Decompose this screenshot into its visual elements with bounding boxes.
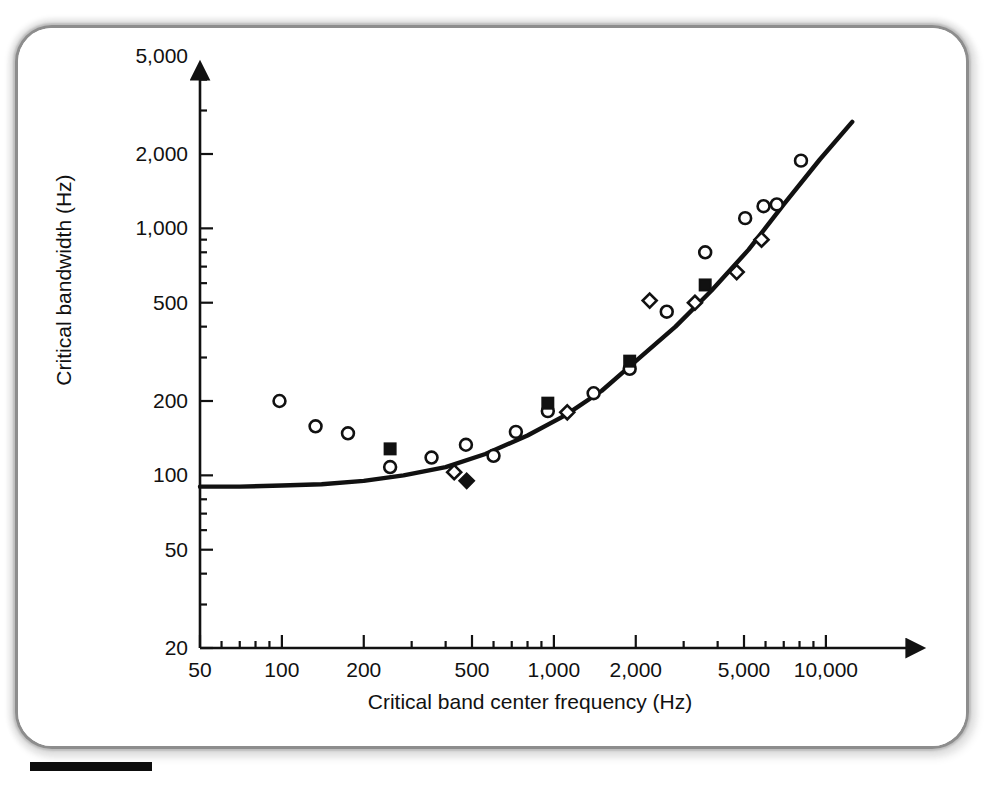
x-tick-label: 100: [264, 658, 299, 682]
y-tick-label: 500: [92, 291, 188, 315]
y-tick-label: 2,000: [92, 142, 188, 166]
x-tick-label: 50: [188, 658, 211, 682]
x-axis-title: Critical band center frequency (Hz): [180, 690, 880, 714]
x-tick-label: 200: [346, 658, 381, 682]
y-tick-label: 20: [92, 636, 188, 660]
scale-bar: [30, 762, 152, 771]
y-tick-label: 5,000: [92, 44, 188, 68]
x-tick-label: 5,000: [718, 658, 771, 682]
x-tick-label: 2,000: [609, 658, 662, 682]
x-tick-label: 500: [454, 658, 489, 682]
x-tick-label: 1,000: [528, 658, 581, 682]
x-tick-label: 10,000: [794, 658, 858, 682]
figure-page: Critical bandwidth (Hz) Critical band ce…: [0, 0, 984, 802]
y-tick-label: 1,000: [92, 216, 188, 240]
y-tick-label: 200: [92, 389, 188, 413]
y-tick-label: 100: [92, 463, 188, 487]
y-tick-label: 50: [92, 538, 188, 562]
y-axis-title: Critical bandwidth (Hz): [52, 130, 76, 430]
